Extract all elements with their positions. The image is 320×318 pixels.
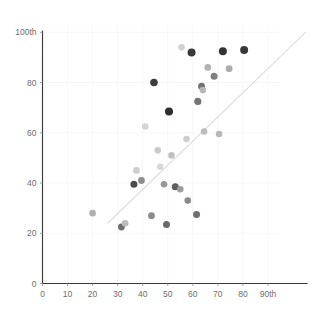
data-points xyxy=(89,44,248,230)
scatter-point xyxy=(177,186,184,193)
scatter-point xyxy=(89,210,96,217)
scatter-point xyxy=(226,65,233,72)
scatter-point xyxy=(200,87,207,94)
scatter-point xyxy=(194,98,201,105)
y-tick-label: 20 xyxy=(27,228,37,238)
scatter-point xyxy=(157,163,163,169)
plot-canvas: 0102030405060708090th 020406080100th xyxy=(0,0,320,318)
x-tick-label: 30 xyxy=(113,289,123,299)
scatter-point xyxy=(142,123,149,130)
scatter-point xyxy=(148,212,155,219)
x-tick-label: 20 xyxy=(88,289,98,299)
y-axis-tick-labels: 020406080100th xyxy=(15,27,42,288)
scatter-point xyxy=(130,181,137,188)
x-tick-label: 70 xyxy=(213,289,223,299)
scatter-point xyxy=(184,197,191,204)
gridlines xyxy=(43,25,281,284)
scatter-point xyxy=(240,46,248,54)
scatter-point xyxy=(150,79,158,87)
y-tick-label: 40 xyxy=(27,178,37,188)
scatter-point xyxy=(163,221,170,228)
trend-line xyxy=(108,32,306,223)
x-tick-label: 60 xyxy=(188,289,198,299)
x-tick-label: 90th xyxy=(260,289,277,299)
x-tick-label: 0 xyxy=(40,289,45,299)
x-tick-label: 80 xyxy=(238,289,248,299)
scatter-point xyxy=(219,47,227,55)
scatter-point xyxy=(122,220,129,227)
x-tick-label: 40 xyxy=(138,289,148,299)
scatter-point xyxy=(201,128,208,135)
y-tick-label: 60 xyxy=(27,128,37,138)
scatter-point xyxy=(133,167,140,174)
scatter-point xyxy=(216,131,223,138)
scatter-point xyxy=(178,44,185,51)
scatter-point xyxy=(154,147,161,154)
x-axis-tick-labels: 0102030405060708090th xyxy=(40,284,276,299)
scatter-chart: 0102030405060708090th 020406080100th xyxy=(0,0,320,318)
scatter-point xyxy=(165,107,173,115)
x-tick-label: 50 xyxy=(163,289,173,299)
scatter-point xyxy=(161,181,168,188)
scatter-point xyxy=(211,73,218,80)
scatter-point xyxy=(193,211,200,218)
x-tick-label: 10 xyxy=(63,289,73,299)
scatter-point xyxy=(183,136,190,143)
y-tick-label: 80 xyxy=(27,78,37,88)
scatter-point xyxy=(204,64,211,71)
y-tick-label: 0 xyxy=(32,279,37,289)
trendline-segment xyxy=(108,32,306,223)
scatter-point xyxy=(138,177,145,184)
y-tick-label: 100th xyxy=(15,27,37,37)
scatter-point xyxy=(188,48,196,56)
scatter-point xyxy=(168,152,175,159)
